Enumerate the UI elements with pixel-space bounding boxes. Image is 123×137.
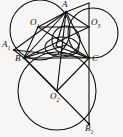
point-label-A1: A1 <box>2 40 11 51</box>
geometry-figure: A B C A1 B1 O1 O2 O3 <box>0 0 123 137</box>
point-label-B: B <box>15 54 21 63</box>
vertex-A <box>65 11 68 14</box>
segment-B-O2 <box>24 58 57 91</box>
geometry-canvas <box>0 0 123 137</box>
segment-A-T <box>66 3 89 12</box>
segment-layer <box>14 3 89 124</box>
vertex-B <box>23 57 26 60</box>
vertex-A1 <box>13 49 15 51</box>
segment-O1-B <box>24 27 38 58</box>
point-label-A: A <box>62 0 68 9</box>
segment-A1-A <box>14 12 66 50</box>
segment-C-O2 <box>57 58 89 91</box>
center-label-O3: O3 <box>91 18 101 29</box>
point-label-C: C <box>92 54 98 63</box>
vertex-C <box>88 57 91 60</box>
center-label-O1: O1 <box>30 18 40 29</box>
point-label-B1: B1 <box>85 124 94 135</box>
center-label-O2: O2 <box>50 92 60 103</box>
